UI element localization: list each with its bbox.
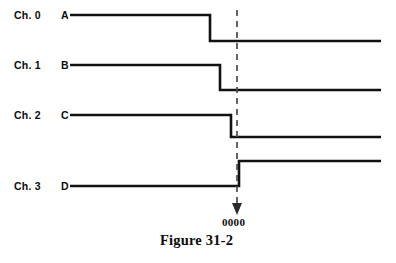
channel-label-ch3: Ch. 3 bbox=[14, 180, 41, 192]
signal-label-b: B bbox=[61, 59, 69, 71]
signal-label-c: C bbox=[61, 109, 69, 121]
channel-label-ch0: Ch. 0 bbox=[14, 9, 41, 21]
channel-label-ch1: Ch. 1 bbox=[14, 59, 41, 71]
waveform-ch2-c bbox=[70, 115, 381, 137]
waveform-ch1-b bbox=[70, 65, 381, 90]
timing-diagram-canvas bbox=[0, 0, 396, 263]
figure-caption: Figure 31-2 bbox=[160, 232, 233, 249]
channel-label-ch2: Ch. 2 bbox=[14, 109, 41, 121]
waveform-ch0-a bbox=[70, 15, 381, 41]
signal-label-a: A bbox=[61, 9, 69, 21]
waveform-ch3-d bbox=[70, 161, 381, 186]
trigger-marker-arrowhead bbox=[232, 203, 242, 215]
signal-label-d: D bbox=[61, 180, 69, 192]
figure-container: Ch. 0 A Ch. 1 B Ch. 2 C Ch. 3 D 0000 Fig… bbox=[0, 0, 396, 263]
trigger-marker-label: 0000 bbox=[222, 216, 245, 228]
